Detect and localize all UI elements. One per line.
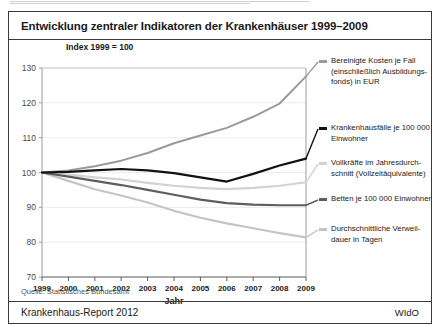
svg-text:2007: 2007 — [244, 284, 262, 293]
legend-label-line: Durchschnittliche Verweil- — [331, 224, 442, 235]
legend-label-line: fonds) in EUR — [331, 77, 442, 88]
footer-report-label: Krankenhaus-Report 2012 — [21, 307, 138, 318]
legend-swatch-beds-per-100000 — [319, 198, 327, 201]
source-note: Quelle: Statistisches Bundesamt — [21, 287, 129, 296]
legend-label-line: schnitt (Vollzeitäquivalente) — [331, 169, 442, 180]
legend-label-beds-per-100000: Betten je 100 000 Einwohner — [331, 194, 442, 205]
svg-text:2004: 2004 — [165, 284, 183, 293]
legend-label-cost-per-case: Bereinigte Kosten je Fall(einschließlich… — [331, 56, 442, 88]
svg-text:90: 90 — [27, 202, 37, 212]
top-decorative-stripe — [10, 0, 310, 6]
legend-label-line: Einwohner — [331, 134, 442, 145]
legend-label-line: Betten je 100 000 Einwohner — [331, 194, 442, 205]
svg-text:70: 70 — [27, 272, 37, 282]
svg-text:2005: 2005 — [192, 284, 210, 293]
legend-swatch-average-stay — [319, 228, 327, 231]
svg-text:80: 80 — [27, 237, 37, 247]
svg-text:100: 100 — [22, 168, 36, 178]
figure-title-bar: Entwicklung zentraler Indikatoren der Kr… — [9, 12, 431, 40]
plot-area-wrapper: 7080901001101201301999200020012002200320… — [9, 40, 431, 323]
figure-footer-bar: Krankenhaus-Report 2012 WIdO — [9, 301, 431, 323]
svg-text:130: 130 — [22, 63, 36, 73]
legend-swatch-cases-per-100000 — [319, 127, 327, 130]
svg-text:2006: 2006 — [218, 284, 236, 293]
svg-text:2008: 2008 — [271, 284, 289, 293]
legend-swatch-full-time-staff — [319, 162, 327, 165]
legend-swatch-cost-per-case — [319, 60, 327, 63]
legend-label-line: dauer in Tagen — [331, 235, 442, 246]
page-title: Entwicklung zentraler Indikatoren der Kr… — [9, 20, 368, 32]
legend-label-cases-per-100000: Krankenhausfälle je 100 000Einwohner — [331, 123, 442, 144]
svg-text:2009: 2009 — [297, 284, 315, 293]
footer-publisher-label: WIdO — [395, 307, 419, 318]
legend-label-average-stay: Durchschnittliche Verweil-dauer in Tagen — [331, 224, 442, 245]
chart-figure-frame: Entwicklung zentraler Indikatoren der Kr… — [8, 11, 432, 324]
legend-label-line: Bereinigte Kosten je Fall — [331, 56, 442, 67]
legend-label-line: (einschließlich Ausbildungs- — [331, 67, 442, 78]
svg-text:110: 110 — [22, 133, 36, 143]
svg-text:120: 120 — [22, 98, 36, 108]
legend-label-full-time-staff: Vollkräfte im Jahresdurch-schnitt (Vollz… — [331, 158, 442, 179]
legend-label-line: Vollkräfte im Jahresdurch- — [331, 158, 442, 169]
svg-text:2003: 2003 — [139, 284, 157, 293]
legend-label-line: Krankenhausfälle je 100 000 — [331, 123, 442, 134]
